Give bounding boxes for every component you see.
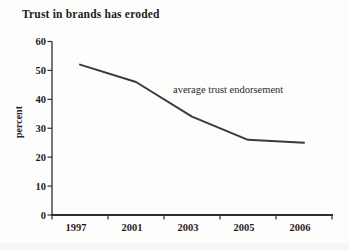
y-tick-label: 60 [18, 35, 46, 48]
line-chart-canvas [0, 0, 349, 250]
x-tick-label: 2006 [278, 221, 322, 234]
y-tick-label: 40 [18, 93, 46, 106]
x-tick-label: 1997 [54, 221, 98, 234]
y-tick-label: 20 [18, 151, 46, 164]
x-tick-label: 2001 [110, 221, 154, 234]
x-tick-label: 2003 [166, 221, 210, 234]
x-tick-label: 2005 [222, 221, 266, 234]
chart-figure: Trust in brands has eroded average trust… [0, 0, 349, 250]
y-tick-label: 10 [18, 180, 46, 193]
y-tick-label: 50 [18, 64, 46, 77]
trust-line-series [80, 65, 304, 143]
series-annotation-label: average trust endorsement [173, 84, 283, 95]
scan-artifact-strip [0, 243, 349, 250]
y-tick-label: 30 [18, 122, 46, 135]
y-tick-label: 0 [18, 209, 46, 222]
